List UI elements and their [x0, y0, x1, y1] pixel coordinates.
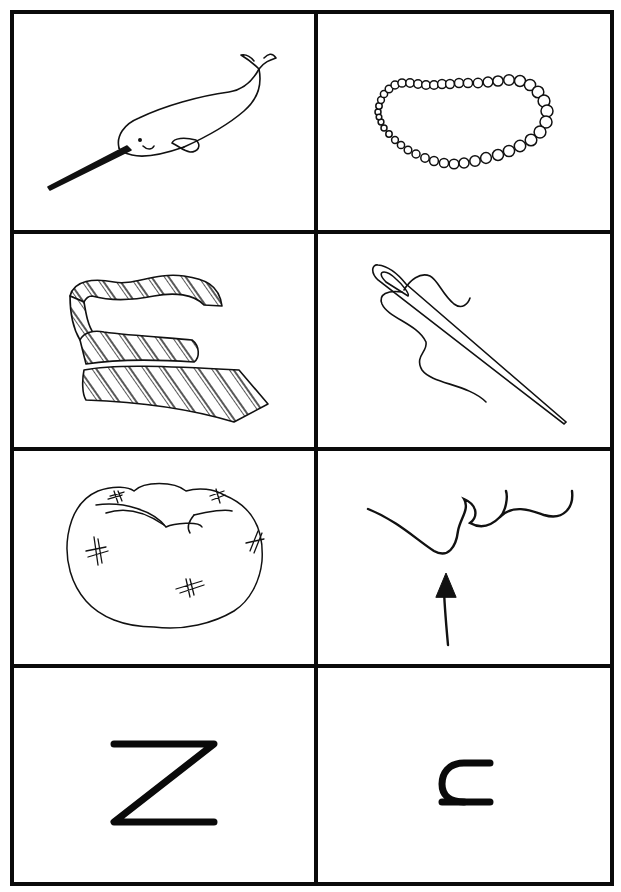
card-letter-z[interactable]: Z	[14, 668, 314, 886]
card-necklace[interactable]: necklace	[318, 14, 614, 230]
narwhal-icon	[14, 14, 314, 230]
card-necktie[interactable]: necktie	[14, 234, 314, 447]
letter-z-icon: Z	[14, 668, 314, 886]
card-narwhal[interactable]: narwhal	[14, 14, 314, 230]
card-letter-n[interactable]: ⊂	[318, 668, 614, 886]
card-sheet: narwhal necklace	[10, 10, 614, 886]
card-nest[interactable]: nest	[14, 451, 314, 664]
card-needle[interactable]: needle and thread	[318, 234, 614, 447]
needle-icon	[318, 234, 614, 447]
neck-icon	[318, 451, 614, 664]
card-neck[interactable]: neck (arrow pointing to neck)	[318, 451, 614, 664]
necktie-icon	[14, 234, 314, 447]
letter-n-icon: ⊂	[318, 668, 614, 886]
nest-icon	[14, 451, 314, 664]
necklace-icon	[318, 14, 614, 230]
